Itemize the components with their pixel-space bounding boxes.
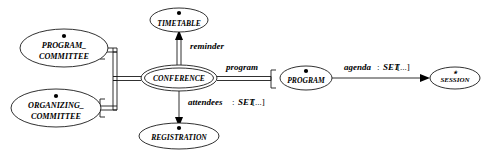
program-committee-label-line1: PROGRAM_: [42, 41, 87, 50]
bracket-marker-program: [271, 70, 276, 88]
edge-label-attendees: attendees : SET [...]: [188, 97, 265, 107]
node-timetable[interactable]: TIMETABLE: [150, 8, 208, 32]
diagram-canvas: PROGRAM_ COMMITTEE ORGANIZING_ COMMITTEE…: [0, 0, 497, 157]
edge-label-attendees-colon: :: [232, 97, 235, 107]
organizing-committee-label-line2: COMMITTEE: [31, 112, 82, 121]
edge-label-agenda-colon: :: [377, 62, 380, 72]
session-label: SESSION: [440, 76, 470, 84]
node-session[interactable]: ★ SESSION: [430, 67, 480, 89]
edge-label-attendees-aggregation: [...]: [252, 97, 265, 107]
edge-reminder: [175, 30, 183, 65]
edge-label-agenda: agenda : SET [...]: [344, 62, 410, 72]
edge-label-program: program: [225, 62, 258, 72]
node-conference[interactable]: CONFERENCE: [141, 65, 217, 91]
edge-label-attendees-name: attendees: [188, 97, 223, 107]
arrowhead-right-session: [420, 74, 430, 82]
entity-dot-icon: [62, 34, 66, 38]
conference-label: CONFERENCE: [153, 74, 205, 83]
express-g-diagram: PROGRAM_ COMMITTEE ORGANIZING_ COMMITTEE…: [0, 0, 497, 157]
node-organizing-committee[interactable]: ORGANIZING_ COMMITTEE: [11, 89, 101, 127]
edge-label-agenda-name: agenda: [344, 62, 372, 72]
node-program[interactable]: PROGRAM: [280, 66, 332, 90]
edge-agenda: [332, 74, 430, 82]
program-label: PROGRAM: [287, 76, 325, 85]
entity-dot-icon: [177, 11, 181, 15]
edge-label-agenda-aggregation: [...]: [397, 62, 410, 72]
program-committee-label-line2: COMMITTEE: [39, 52, 90, 61]
node-registration[interactable]: REGISTRATION: [139, 123, 219, 149]
entity-dot-icon: [177, 126, 181, 130]
edge-program: [217, 77, 271, 81]
node-program-committee[interactable]: PROGRAM_ COMMITTEE: [20, 29, 108, 67]
supertype-subtype-connector: [100, 48, 141, 110]
registration-label: REGISTRATION: [150, 133, 207, 142]
edge-attendees: [175, 91, 183, 127]
timetable-label: TIMETABLE: [157, 19, 200, 28]
entity-dot-icon: [54, 94, 58, 98]
edge-label-reminder: reminder: [190, 41, 224, 51]
entity-dot-icon: [304, 69, 308, 73]
organizing-committee-label-line1: ORGANIZING_: [28, 101, 84, 110]
